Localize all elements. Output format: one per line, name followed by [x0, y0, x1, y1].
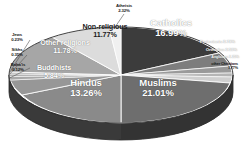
label-protestants-name: Protestants — [200, 39, 223, 44]
label-hindus-value: 13.26% — [55, 88, 117, 98]
label-orthodox: Orthodox 3.53% — [167, 48, 237, 53]
pie-chart-world-religions: Atheists 2.32% Catholics 16.99% Protesta… — [0, 0, 243, 150]
label-jews-value: 0.23% — [2, 38, 32, 43]
label-catholics: Catholics 16.99% — [135, 18, 207, 38]
label-sikhs-value: 0.35% — [2, 53, 32, 58]
label-protestants-value: 5.78% — [223, 39, 235, 44]
label-other-religions: Other religions 11.78% — [32, 39, 98, 54]
label-other-christians-value: 1.77% — [176, 67, 238, 71]
label-buddhists-value: 5.84% — [25, 72, 83, 80]
label-orthodox-name: Orthodox — [206, 47, 225, 52]
label-bahais: Baha'is 0.12% — [2, 63, 34, 72]
label-protestants: Protestants 5.78% — [163, 40, 235, 45]
label-anglicans: Anglicans 1.25% — [175, 56, 239, 60]
label-muslims: Muslims 21.01% — [124, 78, 192, 98]
label-bahais-value: 0.12% — [2, 68, 34, 73]
label-atheists-value: 2.32% — [100, 9, 148, 14]
label-hindus: Hindus 13.26% — [55, 78, 117, 98]
label-other-christians: other Christians 1.77% — [176, 63, 238, 71]
label-anglicans-name: Anglicans — [211, 55, 228, 59]
label-non-religious: Non-religious 11.77% — [72, 23, 138, 38]
label-other-religions-value: 11.78% — [32, 47, 98, 55]
label-non-religious-value: 11.77% — [72, 31, 138, 39]
label-anglicans-value: 1.25% — [229, 55, 239, 59]
label-sikhs: Sikhs 0.35% — [2, 48, 32, 57]
label-muslims-value: 21.01% — [124, 88, 192, 98]
label-catholics-value: 16.99% — [135, 28, 207, 38]
label-jews: Jews 0.23% — [2, 33, 32, 42]
label-atheists: Atheists 2.32% — [100, 4, 148, 13]
label-orthodox-value: 3.53% — [225, 47, 237, 52]
